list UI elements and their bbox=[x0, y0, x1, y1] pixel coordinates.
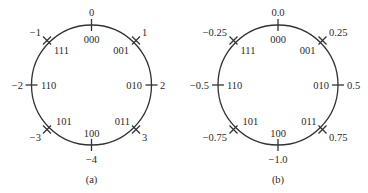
code-a-111: 111 bbox=[54, 45, 69, 56]
caption-b: (b) bbox=[272, 174, 285, 186]
code-a-011: 011 bbox=[115, 116, 130, 127]
code-a-001: 001 bbox=[113, 45, 129, 56]
code-b-111: 111 bbox=[241, 45, 256, 56]
code-b-100: 100 bbox=[270, 128, 286, 139]
value-b-100: −1.0 bbox=[268, 154, 287, 165]
code-a-110: 110 bbox=[41, 80, 56, 91]
code-a-000: 000 bbox=[84, 34, 100, 45]
number-circle-figure: 0 1 2 3 −4 −3 −2 −1 000 001 010 011 100 … bbox=[0, 0, 368, 193]
code-a-100: 100 bbox=[84, 128, 100, 139]
code-b-011: 011 bbox=[301, 116, 316, 127]
value-b-110: −0.5 bbox=[190, 80, 209, 91]
code-a-010: 010 bbox=[126, 80, 142, 91]
value-b-101: −0.75 bbox=[203, 132, 227, 143]
value-a-111: −1 bbox=[30, 27, 41, 38]
value-b-111: −0.25 bbox=[203, 27, 227, 38]
caption-a: (a) bbox=[86, 174, 98, 186]
code-b-001: 001 bbox=[300, 45, 316, 56]
value-a-100: −4 bbox=[86, 154, 98, 165]
value-a-101: −3 bbox=[30, 132, 41, 143]
value-a-010: 2 bbox=[160, 80, 165, 91]
code-b-010: 010 bbox=[313, 80, 329, 91]
value-b-001: 0.25 bbox=[329, 27, 347, 38]
value-a-000: 0 bbox=[89, 7, 94, 18]
value-a-110: −2 bbox=[12, 80, 23, 91]
value-b-010: 0.5 bbox=[347, 80, 360, 91]
code-b-000: 000 bbox=[270, 34, 286, 45]
diagram-a: 0 1 2 3 −4 −3 −2 −1 000 001 010 011 100 … bbox=[12, 7, 165, 186]
diagram-b: 0.0 0.25 0.5 0.75 −1.0 −0.75 −0.5 −0.25 … bbox=[190, 7, 360, 186]
code-b-101: 101 bbox=[243, 116, 259, 127]
value-a-001: 1 bbox=[142, 27, 147, 38]
value-b-011: 0.75 bbox=[329, 132, 347, 143]
code-b-110: 110 bbox=[227, 80, 242, 91]
value-a-011: 3 bbox=[142, 132, 147, 143]
value-b-000: 0.0 bbox=[271, 7, 284, 18]
code-a-101: 101 bbox=[56, 116, 72, 127]
